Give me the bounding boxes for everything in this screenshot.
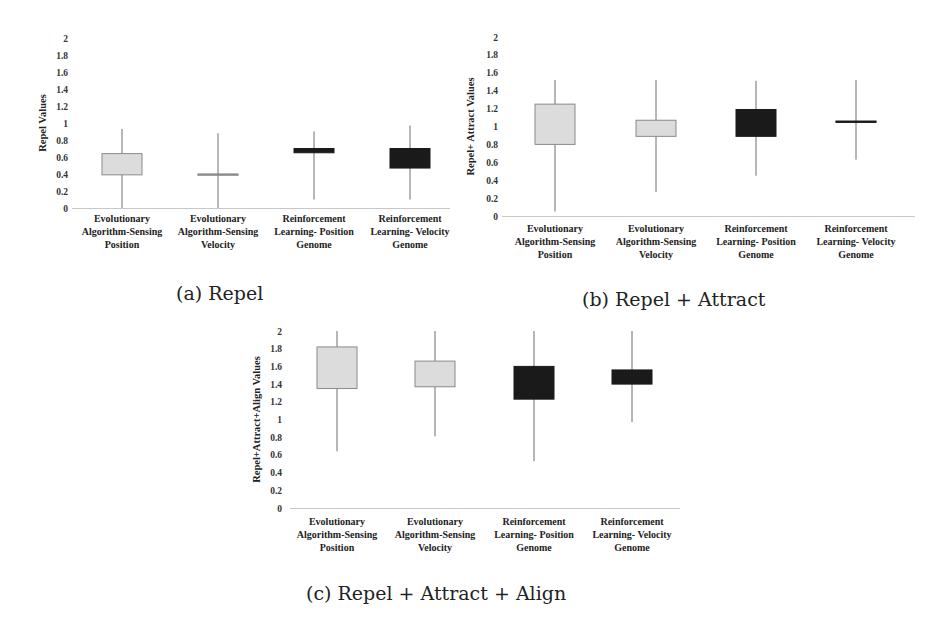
category-label: Algorithm-Sensing [82,226,163,237]
category-label: Evolutionary [190,213,246,224]
y-tick-label: 0.8 [270,433,282,443]
iqr-box [198,174,238,175]
chart-panel-a: 00.20.40.60.811.21.41.61.82Repel ValuesE… [0,0,460,260]
y-tick-label: 0 [493,212,498,222]
box-4 [612,331,652,422]
iqr-box [535,104,575,144]
category-label: Evolutionary [94,213,150,224]
iqr-box [317,347,357,389]
box-2 [198,133,238,208]
category-label: Velocity [201,239,235,250]
category-label: Genome [838,249,874,260]
box-1 [535,80,575,212]
y-tick-label: 0.4 [270,468,282,478]
y-tick-label: 0 [63,204,68,214]
caption-a: (a) Repel [176,282,263,304]
iqr-box [294,149,334,153]
category-label: Learning- Position [274,226,354,237]
y-tick-label: 0.4 [486,176,498,186]
y-axis-label: Repel+Attract+Align Values [251,356,262,483]
category-label: Evolutionary [628,223,684,234]
category-label: Genome [392,239,428,250]
category-label: Algorithm-Sensing [297,529,378,540]
y-tick-label: 0.6 [56,153,68,163]
y-tick-label: 1.8 [56,51,68,61]
chart-panel-b: 00.20.40.60.811.21.41.61.82Repel+ Attrac… [460,0,930,270]
y-tick-label: 1.6 [486,68,498,78]
iqr-box [612,370,652,384]
category-label: Learning- Velocity [370,226,449,237]
box-2 [415,331,455,436]
y-tick-label: 1 [493,122,498,132]
caption-b: (b) Repel + Attract [582,288,765,310]
boxplot-c: 00.20.40.60.811.21.41.61.82Repel+Attract… [230,320,700,570]
y-tick-label: 0.4 [56,170,68,180]
y-tick-label: 0.6 [486,158,498,168]
category-label: Genome [296,239,332,250]
box-3 [736,81,776,176]
y-tick-label: 0.6 [270,450,282,460]
caption-c: (c) Repel + Attract + Align [306,582,566,604]
category-label: Learning- Velocity [816,236,895,247]
y-tick-label: 1.2 [56,102,68,112]
category-label: Learning- Position [716,236,796,247]
box-3 [514,331,554,461]
category-label: Genome [614,542,650,553]
category-label: Reinforcement [502,516,566,527]
category-label: Velocity [639,249,673,260]
y-tick-label: 1 [63,119,68,129]
category-label: Reinforcement [824,223,888,234]
y-tick-label: 0.8 [486,140,498,150]
iqr-box [836,121,876,122]
category-label: Position [320,542,355,553]
category-label: Learning- Position [494,529,574,540]
category-label: Position [538,249,573,260]
box-4 [836,80,876,160]
y-tick-label: 0.2 [486,194,498,204]
category-label: Velocity [418,542,452,553]
category-label: Position [105,239,140,250]
y-axis-label: Repel+ Attract Values [465,77,476,175]
iqr-box [390,149,430,169]
category-label: Reinforcement [282,213,346,224]
category-label: Reinforcement [600,516,664,527]
chart-panel-c: 00.20.40.60.811.21.41.61.82Repel+Attract… [230,320,700,570]
y-tick-label: 0.8 [56,136,68,146]
y-tick-label: 1 [277,415,282,425]
y-axis-label: Repel Values [37,94,48,151]
y-tick-label: 0.2 [56,187,68,197]
iqr-box [736,109,776,136]
boxplot-a: 00.20.40.60.811.21.41.61.82Repel ValuesE… [0,0,460,260]
category-label: Algorithm-Sensing [395,529,476,540]
y-tick-label: 1.4 [486,86,498,96]
boxplot-b: 00.20.40.60.811.21.41.61.82Repel+ Attrac… [460,0,930,270]
category-label: Learning- Velocity [592,529,671,540]
box-4 [390,126,430,200]
box-1 [317,331,357,451]
y-tick-label: 1.4 [270,380,282,390]
category-label: Algorithm-Sensing [515,236,596,247]
category-label: Reinforcement [378,213,442,224]
y-tick-label: 1.2 [486,104,498,114]
y-tick-label: 2 [493,33,498,43]
y-tick-label: 2 [277,327,282,337]
category-label: Genome [516,542,552,553]
y-tick-label: 1.2 [270,397,282,407]
y-tick-label: 0.2 [270,486,282,496]
iqr-box [415,361,455,387]
y-tick-label: 1.8 [270,344,282,354]
category-label: Evolutionary [309,516,365,527]
iqr-box [514,366,554,399]
y-tick-label: 0 [277,504,282,514]
box-1 [102,129,142,208]
y-tick-label: 2 [63,34,68,44]
box-3 [294,132,334,200]
y-tick-label: 1.4 [56,85,68,95]
iqr-box [102,154,142,175]
iqr-box [636,120,676,136]
category-label: Algorithm-Sensing [178,226,259,237]
y-tick-label: 1.6 [56,68,68,78]
category-label: Evolutionary [527,223,583,234]
box-2 [636,80,676,192]
category-label: Reinforcement [724,223,788,234]
